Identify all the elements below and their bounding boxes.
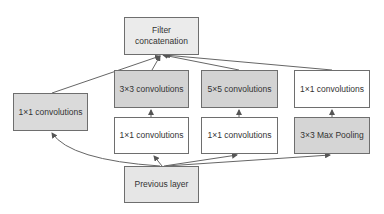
conv3x3-label: 3×3 convolutions	[119, 84, 183, 95]
conv5x5-node: 5×5 convolutions	[201, 70, 278, 108]
edge-prev-to-maxpool	[166, 155, 330, 166]
conv1x1-direct-label: 1×1 convolutions	[18, 107, 82, 118]
concat-label-line1: Filter	[135, 25, 188, 36]
conv1x1-reduce3-node: 1×1 convolutions	[114, 117, 189, 154]
edge-conv1x1-pool-to-concat	[165, 55, 332, 70]
concat-label-line2: concatenation	[135, 36, 188, 47]
conv1x1-direct-node: 1×1 convolutions	[13, 93, 88, 131]
conv1x1-reduce3-label: 1×1 convolutions	[119, 130, 183, 141]
conv3x3-node: 3×3 convolutions	[114, 70, 189, 108]
maxpool-node: 3×3 Max Pooling	[294, 117, 370, 154]
previous-layer-label: Previous layer	[135, 179, 189, 190]
filter-concatenation-node: Filter concatenation	[124, 17, 199, 55]
conv1x1-pool-proj-label: 1×1 convolutions	[300, 84, 364, 95]
conv1x1-reduce5-node: 1×1 convolutions	[201, 117, 278, 154]
conv5x5-label: 5×5 convolutions	[207, 84, 271, 95]
conv1x1-pool-proj-node: 1×1 convolutions	[294, 70, 370, 108]
edge-prev-to-reduce3	[154, 156, 162, 166]
edge-prev-to-reduce5	[164, 155, 237, 166]
previous-layer-node: Previous layer	[124, 166, 199, 203]
maxpool-label: 3×3 Max Pooling	[300, 130, 364, 141]
conv1x1-reduce5-label: 1×1 convolutions	[207, 130, 271, 141]
edge-conv5x5-to-concat	[163, 55, 239, 70]
